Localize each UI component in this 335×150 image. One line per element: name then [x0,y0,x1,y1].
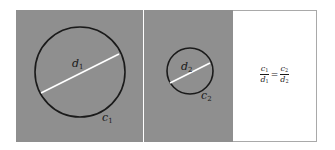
label-c1: c1 [102,111,113,125]
large-circle [35,27,125,117]
large-circle-diameter [41,54,119,93]
label-c2: c2 [201,89,212,103]
circles-drawing: d1 c1 d2 c2 [0,0,335,150]
label-d1: d1 [72,57,84,71]
label-d2: d2 [181,60,193,74]
